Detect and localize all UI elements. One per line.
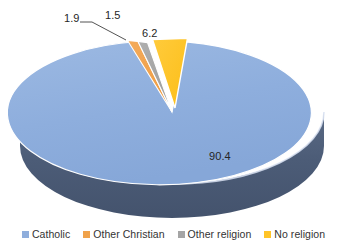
data-label-other-christian: 1.9: [64, 12, 80, 24]
data-label-other-religion: 1.5: [105, 9, 121, 21]
legend-item-other-religion[interactable]: Other religion: [178, 228, 252, 240]
legend-swatch-icon: [178, 231, 185, 238]
pie-chart: 1.9 1.5 6.2 90.4 Catholic Other Christia…: [0, 0, 347, 247]
legend-item-other-christian[interactable]: Other Christian: [83, 228, 164, 240]
legend-label-no-religion: No religion: [274, 228, 325, 240]
leader-line-other-christian: [80, 22, 126, 40]
legend-item-no-religion[interactable]: No religion: [264, 228, 325, 240]
legend-label-other-religion: Other religion: [188, 228, 252, 240]
legend-item-catholic[interactable]: Catholic: [22, 228, 70, 240]
chart-legend: Catholic Other Christian Other religion …: [0, 224, 347, 244]
legend-label-catholic: Catholic: [32, 228, 70, 240]
legend-swatch-icon: [22, 231, 29, 238]
legend-swatch-icon: [264, 231, 271, 238]
legend-label-other-christian: Other Christian: [93, 228, 164, 240]
data-label-no-religion: 6.2: [142, 27, 158, 39]
pie-chart-canvas: [0, 0, 347, 247]
legend-swatch-icon: [83, 231, 90, 238]
data-label-catholic: 90.4: [209, 150, 231, 162]
pie-slice-catholic: [7, 42, 311, 185]
pie-top-face: [7, 38, 311, 185]
